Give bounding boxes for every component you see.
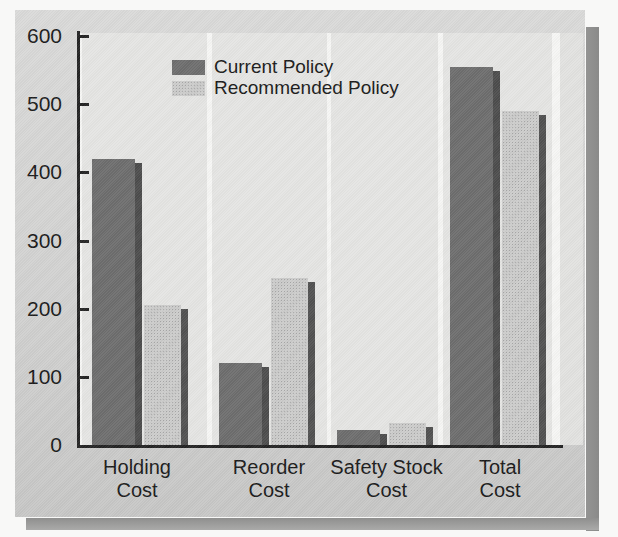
x-axis-line [77, 445, 563, 448]
bar-extrusion-shadow [426, 427, 433, 445]
scanned-page: 0100200300400500600 HoldingCostReorderCo… [0, 0, 618, 537]
y-axis-tick [80, 376, 89, 379]
x-category-label-line: Total [425, 456, 575, 479]
y-tick-label: 400 [15, 160, 62, 184]
bar-current-policy-reorder-cost [219, 363, 262, 445]
bar-extrusion-shadow [181, 309, 188, 445]
x-category-label: HoldingCost [62, 456, 212, 502]
bar-current-policy-total-cost [450, 67, 493, 445]
x-category-label: TotalCost [425, 456, 575, 502]
y-axis-tick [80, 171, 89, 174]
y-tick-label: 600 [15, 24, 62, 48]
bar-extrusion-shadow [262, 367, 269, 445]
bar-extrusion-shadow [308, 282, 315, 445]
cost-comparison-bar-chart: 0100200300400500600 HoldingCostReorderCo… [15, 10, 585, 517]
bar-recommended-policy-safety-stock-cost [389, 423, 426, 445]
bar-current-policy-holding-cost [92, 159, 135, 445]
y-axis-tick [80, 240, 89, 243]
y-axis-tick [80, 308, 89, 311]
legend-item-current-policy: Current Policy [172, 56, 333, 78]
bar-extrusion-shadow [539, 115, 546, 445]
figure-right-drop-shadow [586, 27, 599, 531]
y-axis-tick [80, 35, 89, 38]
legend-swatch-current-policy [172, 60, 205, 75]
x-category-label-line: Cost [62, 479, 212, 502]
y-tick-label: 100 [15, 365, 62, 389]
legend-label-recommended-policy: Recommended Policy [214, 77, 399, 99]
figure-bottom-drop-shadow [26, 518, 599, 530]
y-tick-label: 500 [15, 92, 62, 116]
legend-label-current-policy: Current Policy [214, 56, 333, 78]
bar-recommended-policy-holding-cost [144, 305, 181, 445]
y-tick-label: 0 [15, 433, 62, 457]
bar-recommended-policy-reorder-cost [271, 278, 308, 445]
bar-current-policy-safety-stock-cost [337, 430, 380, 445]
y-axis-tick [80, 103, 89, 106]
y-tick-label: 300 [15, 229, 62, 253]
legend-swatch-recommended-policy [172, 81, 205, 96]
bar-extrusion-shadow [493, 71, 500, 445]
bar-extrusion-shadow [135, 163, 142, 445]
x-category-label-line: Cost [425, 479, 575, 502]
bar-extrusion-shadow [380, 434, 387, 445]
legend-item-recommended-policy: Recommended Policy [172, 77, 399, 99]
plot-right-margin-panel [560, 33, 583, 445]
bar-recommended-policy-total-cost [502, 111, 539, 445]
x-category-label-line: Holding [62, 456, 212, 479]
y-tick-label: 200 [15, 297, 62, 321]
